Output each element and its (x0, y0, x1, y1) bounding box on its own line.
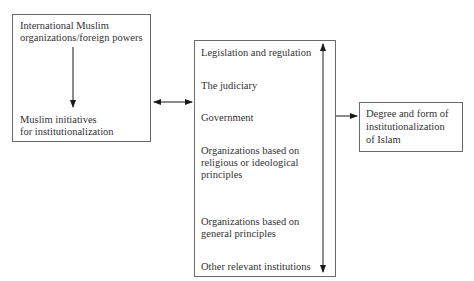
connector-layer (0, 0, 474, 281)
